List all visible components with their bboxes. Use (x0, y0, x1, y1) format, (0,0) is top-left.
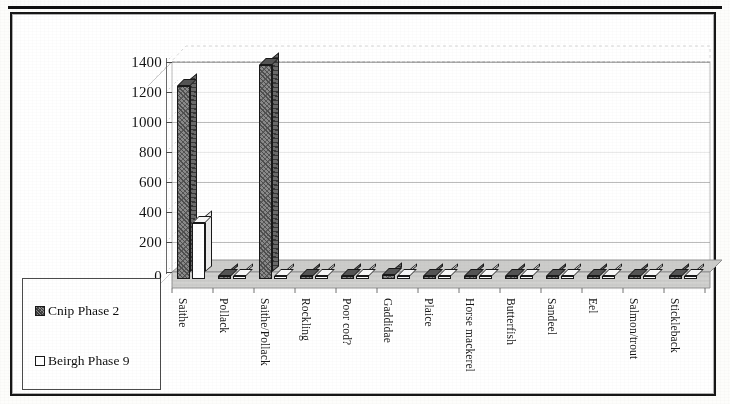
x-label-butterfish: Butterfish (505, 298, 517, 345)
x-label-saithe-pollack: Saithe/Pollack (259, 298, 271, 366)
x-label-pollack: Pollack (218, 298, 230, 333)
x-label-gaddidae: Gaddidae (382, 298, 394, 343)
legend-label-beirgh: Beirgh Phase 9 (48, 354, 130, 368)
scanned-page: 1400 1200 1000 800 600 400 200 0 SaitheP… (0, 0, 730, 404)
legend-entry-beirgh: Beirgh Phase 9 (35, 354, 130, 368)
x-label-sandeel: Sandeel (546, 298, 558, 335)
x-label-eel: Eel (587, 298, 599, 314)
x-label-horse-mackerel: Horse mackerel (464, 298, 476, 372)
x-label-rockling: Rockling (300, 298, 312, 341)
legend-swatch-cnip-icon (35, 306, 45, 316)
x-label-poor-cod-: Poor cod? (341, 298, 353, 345)
x-label-stickleback: Stickleback (669, 298, 681, 353)
x-label-salmon-trout: Salmon/trout (628, 298, 640, 359)
legend-entry-cnip: Cnip Phase 2 (35, 304, 119, 318)
legend-swatch-beirgh-icon (35, 356, 45, 366)
chart-legend: Cnip Phase 2 Beirgh Phase 9 (22, 278, 161, 390)
legend-label-cnip: Cnip Phase 2 (48, 304, 119, 318)
x-label-plaice: Plaice (423, 298, 435, 327)
x-label-saithe: Saithe (177, 298, 189, 327)
